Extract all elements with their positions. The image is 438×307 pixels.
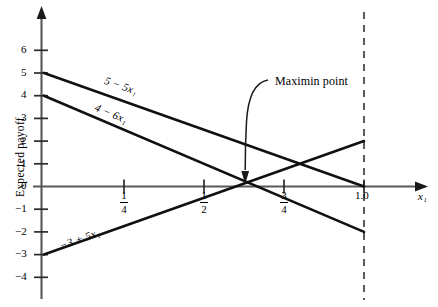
y-axis-title: Expected payoff	[14, 117, 26, 197]
y-tick-label-neg4: −4	[15, 271, 27, 282]
expected-payoff-chart: 6 5 4 3 2 1 0 −1 −2 −3 −4 1 4 1 2 3 4 1.…	[0, 0, 438, 307]
x-tick-one-half-denominator: 2	[196, 204, 212, 216]
y-tick-label-5: 5	[21, 67, 27, 78]
x-tick-three-quarters-denominator: 4	[276, 204, 292, 216]
x-tick-three-quarters-numerator: 3	[276, 190, 292, 202]
x-tick-label-three-quarters: 3 4	[276, 190, 292, 215]
x-tick-label-one-half: 1 2	[196, 190, 212, 215]
maximin-annotation-leader	[245, 80, 268, 170]
y-tick-label-neg2: −2	[15, 226, 27, 237]
x-axis-title: x₁	[418, 191, 427, 202]
x-tick-one-half-numerator: 1	[196, 190, 212, 202]
series-line-5-minus-5x1	[44, 73, 364, 187]
y-axis-arrowhead	[37, 6, 47, 19]
y-tick-label-neg3: −3	[15, 248, 27, 259]
x-tick-one-quarter-numerator: 1	[116, 190, 132, 202]
y-tick-label-6: 6	[21, 44, 27, 55]
y-tick-label-neg1: −1	[15, 203, 27, 214]
x-tick-one-quarter-denominator: 4	[116, 204, 132, 216]
y-tick-label-4: 4	[21, 89, 27, 100]
x-tick-label-one-point-zero: 1.0	[355, 190, 369, 201]
maximin-point-annotation-label: Maximin point	[275, 74, 348, 89]
x-tick-label-one-quarter: 1 4	[116, 190, 132, 215]
chart-plot-area	[0, 0, 438, 307]
